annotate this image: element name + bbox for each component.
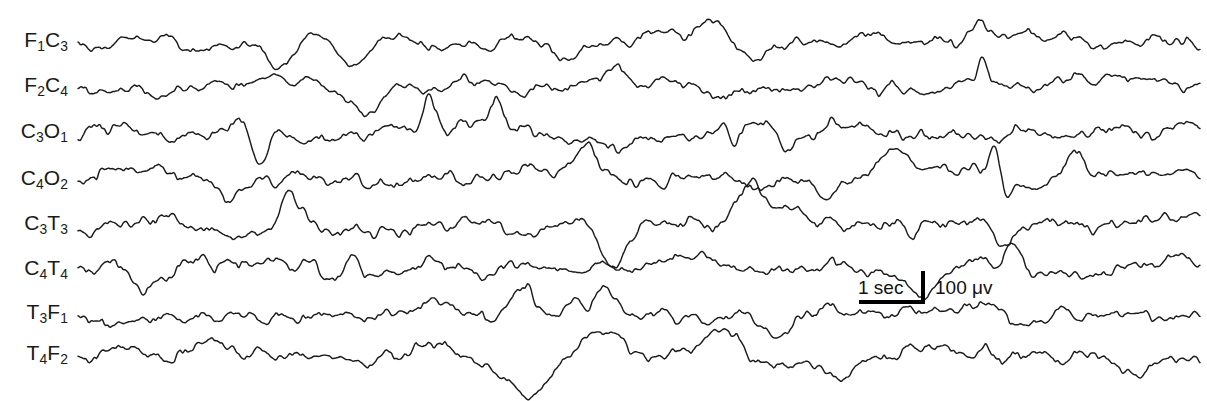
- eeg-trace-c3o1: [78, 94, 1200, 164]
- eeg-trace-c4o2: [78, 142, 1200, 202]
- calibration-amplitude-label: 100 μv: [935, 278, 992, 297]
- eeg-traces: [0, 0, 1207, 401]
- eeg-trace-c3t3: [78, 178, 1200, 268]
- eeg-trace-t4f2: [78, 329, 1200, 400]
- calibration-time-label: 1 sec: [858, 278, 903, 297]
- calibration-amplitude-bar: [921, 271, 925, 304]
- cropped-caption-artifact: [0, 392, 1207, 401]
- eeg-recording-figure: F1C3F2C4C3O1C4O2C3T3C4T4T3F1T4F2 1 sec 1…: [0, 0, 1207, 401]
- eeg-trace-f2c4: [78, 57, 1200, 117]
- calibration-marker: 1 sec 100 μv: [855, 262, 1070, 310]
- eeg-trace-f1c3: [78, 19, 1200, 69]
- calibration-time-bar: [859, 300, 925, 304]
